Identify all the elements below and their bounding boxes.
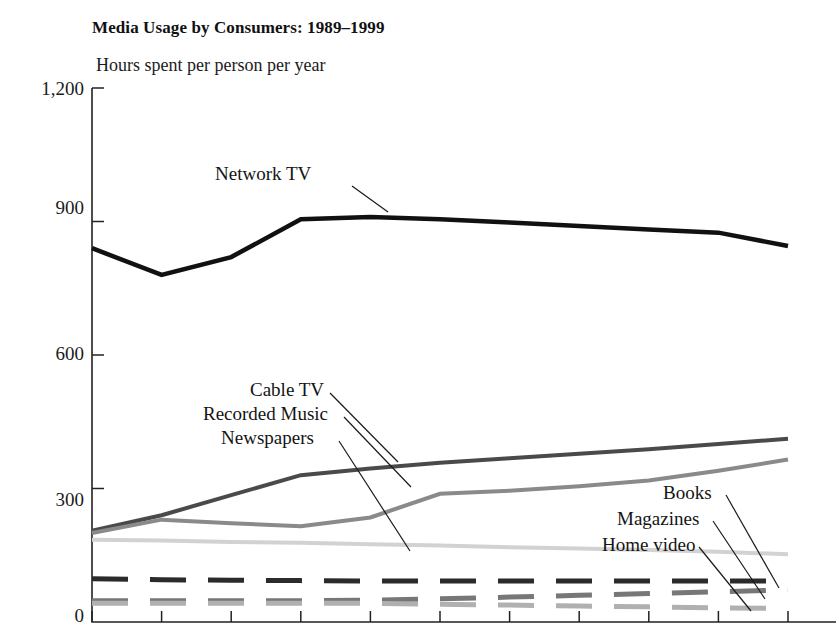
- series-line-magazines: [92, 590, 788, 601]
- series-line-home-video: [92, 603, 788, 608]
- series-label-recorded-music: Recorded Music: [203, 403, 328, 425]
- leader-line: [726, 495, 779, 588]
- series-label-home-video: Home video: [602, 534, 695, 556]
- series-label-cable-tv: Cable TV: [250, 379, 324, 401]
- chart-figure: Media Usage by Consumers: 1989–1999 Hour…: [0, 0, 839, 625]
- series-line-network-tv: [92, 217, 788, 275]
- series-label-magazines: Magazines: [617, 508, 699, 530]
- series-label-network-tv: Network TV: [215, 163, 311, 185]
- series-line-books: [92, 579, 788, 581]
- leader-line: [339, 441, 410, 551]
- leader-line: [713, 521, 765, 599]
- leader-line: [330, 393, 398, 462]
- leader-line: [344, 417, 411, 487]
- chart-plot-area: [0, 0, 839, 625]
- series-label-books: Books: [663, 482, 712, 504]
- leader-line: [352, 186, 388, 212]
- series-label-newspapers: Newspapers: [221, 427, 314, 449]
